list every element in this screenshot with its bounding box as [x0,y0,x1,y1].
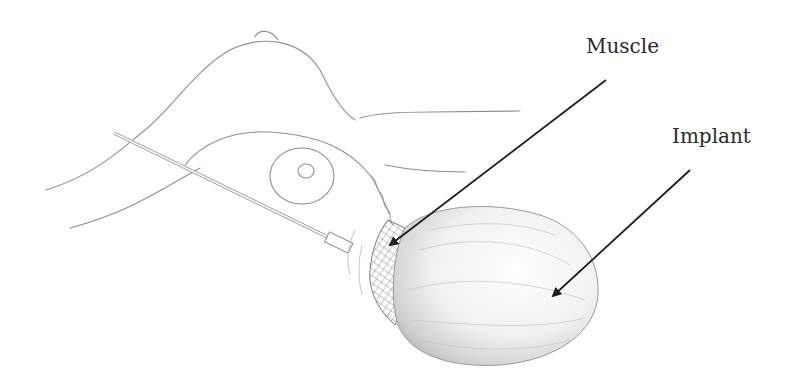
muscle-label: Muscle [586,34,659,58]
surgical-sketch [0,0,801,385]
implant-pointer-arrow [553,170,690,296]
illustration-canvas: Muscle Implant [0,0,801,385]
implant-shape [393,206,598,365]
breast-flap [185,132,393,225]
implant-label: Implant [672,124,751,148]
